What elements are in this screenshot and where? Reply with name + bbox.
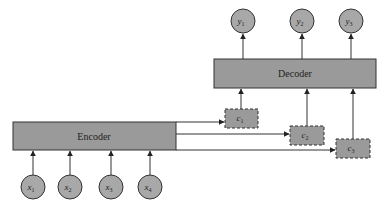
- input-node-x4: x4: [138, 175, 162, 199]
- output-node-y2: y2: [290, 9, 314, 33]
- output-node-y3: y3: [339, 9, 363, 33]
- context-box-c1: c1: [225, 109, 258, 128]
- output-node-y1: y1: [231, 9, 255, 33]
- decoder-block: Decoder: [214, 59, 376, 88]
- encoder-decoder-diagram: Encoder Decoder x1 x2 x3 x4 c1: [0, 0, 387, 213]
- encoder-label: Encoder: [77, 131, 111, 142]
- input-node-x3: x3: [99, 175, 123, 199]
- input-node-x2: x2: [58, 175, 82, 199]
- decoder-label: Decoder: [278, 68, 313, 79]
- input-node-x1: x1: [21, 175, 45, 199]
- output-arrows: [243, 34, 351, 59]
- input-arrows: [33, 151, 150, 176]
- context-box-c3: c3: [336, 139, 370, 158]
- encoder-block: Encoder: [13, 122, 176, 150]
- context-box-c2: c2: [290, 126, 324, 145]
